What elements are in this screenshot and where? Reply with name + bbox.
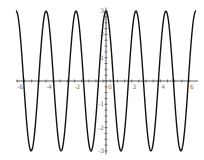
tick-label: -2 <box>98 124 104 131</box>
tick-label: 4 <box>161 83 165 90</box>
tick-label: 6 <box>190 83 194 90</box>
axes <box>16 8 198 155</box>
plot-area: -6-4-20246-3-2-1123 <box>0 0 204 160</box>
tick-label: 3 <box>100 7 104 14</box>
tick-label: -2 <box>74 83 80 90</box>
tick-label: -1 <box>98 100 104 107</box>
tick-label: 0 <box>108 83 112 90</box>
tick-label: 2 <box>133 83 137 90</box>
tick-label: -6 <box>17 83 23 90</box>
tick-label: -4 <box>46 83 52 90</box>
tick-label: -3 <box>98 147 104 154</box>
